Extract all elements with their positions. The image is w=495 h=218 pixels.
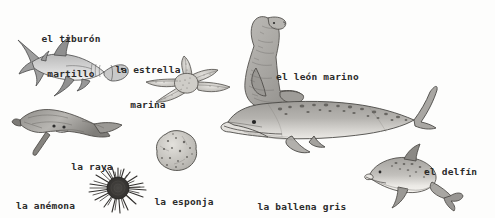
figure-sponge bbox=[150, 128, 204, 176]
label-line-1: la ballena gris bbox=[254, 201, 350, 213]
whale-eye bbox=[252, 120, 256, 124]
label-line-1: el delfín bbox=[424, 166, 486, 178]
dolphin-eye bbox=[379, 171, 382, 174]
label-sponge: la esponja bbox=[148, 173, 220, 218]
label-gray-whale: la ballena gris bbox=[254, 178, 350, 218]
ray-eye-left bbox=[52, 124, 55, 127]
label-line-2: martillo bbox=[30, 68, 112, 80]
illustration-page: el tiburón martillo bbox=[0, 0, 495, 218]
label-line-1: la estrella bbox=[108, 64, 188, 76]
figure-sea-anemone bbox=[84, 164, 152, 216]
label-line-1: la anémona bbox=[16, 200, 92, 212]
label-sea-anemone: la anémona bbox=[16, 177, 92, 218]
label-line-1: el tiburón bbox=[30, 33, 112, 45]
ray-eye-right bbox=[62, 125, 65, 128]
label-hammerhead-shark: el tiburón martillo bbox=[30, 10, 112, 102]
sealion-eye bbox=[273, 22, 275, 24]
label-line-1: la esponja bbox=[148, 196, 220, 208]
label-line-1: el león marino bbox=[276, 71, 366, 83]
label-dolphin: el delfín bbox=[424, 143, 486, 201]
